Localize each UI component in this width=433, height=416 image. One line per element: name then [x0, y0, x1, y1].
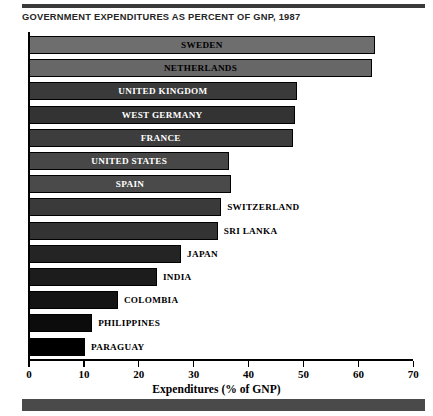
x-tick-label: 30 [188, 368, 199, 380]
bar-label: FRANCE [29, 129, 293, 147]
bar [29, 268, 157, 286]
bar [29, 338, 85, 356]
x-tick [413, 361, 414, 367]
bar-label: UNITED STATES [29, 152, 229, 170]
bar-row: SPAIN [29, 175, 231, 193]
x-tick [248, 361, 249, 367]
x-tick [28, 361, 29, 367]
x-tick [138, 361, 139, 367]
x-tick [193, 361, 194, 367]
x-tick [358, 361, 359, 367]
bar-row: UNITED KINGDOM [29, 82, 297, 100]
x-tick-label: 20 [133, 368, 144, 380]
bar-row: SWITZERLAND [29, 198, 221, 216]
x-tick [83, 361, 84, 367]
x-axis-label: Expenditures (% of GNP) [0, 383, 433, 396]
bar [29, 198, 221, 216]
bar-row: NETHERLANDS [29, 59, 372, 77]
bar-row: SRI LANKA [29, 222, 218, 240]
bottom-band-decoration [22, 399, 425, 411]
bar-label: COLOMBIA [124, 291, 178, 309]
bar-row: SWEDEN [29, 36, 375, 54]
x-tick-label: 50 [298, 368, 309, 380]
bar-row: INDIA [29, 268, 157, 286]
page-title: GOVERNMENT EXPENDITURES AS PERCENT OF GN… [22, 12, 300, 22]
bar-label: SPAIN [29, 175, 231, 193]
chart-page: GOVERNMENT EXPENDITURES AS PERCENT OF GN… [0, 0, 433, 416]
x-tick-label: 0 [26, 368, 32, 380]
x-axis-line [28, 359, 413, 361]
bar-label: SRI LANKA [224, 222, 278, 240]
bar [29, 222, 218, 240]
bar [29, 291, 118, 309]
bar [29, 314, 92, 332]
bar-row: JAPAN [29, 245, 181, 263]
bar-label: SWEDEN [29, 36, 375, 54]
bar-series: SWEDENNETHERLANDSUNITED KINGDOMWEST GERM… [0, 30, 433, 356]
bar-row: WEST GERMANY [29, 106, 295, 124]
plot-area: SWEDENNETHERLANDSUNITED KINGDOMWEST GERM… [0, 30, 433, 360]
x-tick-label: 40 [243, 368, 254, 380]
bar-label: UNITED KINGDOM [29, 82, 297, 100]
bar-label: INDIA [163, 268, 192, 286]
bar-label: PHILIPPINES [98, 314, 160, 332]
x-tick-label: 70 [408, 368, 419, 380]
bar-label: WEST GERMANY [29, 106, 295, 124]
x-tick-label: 60 [353, 368, 364, 380]
bar-row: PHILIPPINES [29, 314, 92, 332]
bar-label: SWITZERLAND [227, 198, 299, 216]
bar-row: PARAGUAY [29, 338, 85, 356]
bar-row: UNITED STATES [29, 152, 229, 170]
bar-label: NETHERLANDS [29, 59, 372, 77]
x-tick [303, 361, 304, 367]
bar-row: FRANCE [29, 129, 293, 147]
bar-row: COLOMBIA [29, 291, 118, 309]
bar [29, 245, 181, 263]
top-rule-decoration [22, 4, 425, 8]
bar-label: PARAGUAY [91, 338, 144, 356]
bar-label: JAPAN [187, 245, 218, 263]
x-tick-label: 10 [78, 368, 89, 380]
